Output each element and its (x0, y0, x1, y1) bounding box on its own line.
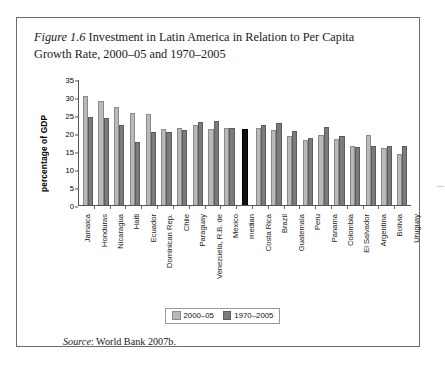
bar-group (284, 80, 300, 205)
x-tick-mark (95, 206, 111, 209)
x-tick-mark (190, 206, 206, 209)
x-tick-mark (269, 206, 285, 209)
bar-1970-2005[interactable] (214, 121, 219, 205)
x-label-wrap: Argentina (375, 212, 391, 298)
x-label-wrap: median (243, 212, 259, 298)
bar-group (237, 80, 253, 205)
y-tick-5: 5 (70, 184, 74, 193)
x-label-wrap: Ecuador (145, 212, 161, 298)
x-tick-mark (111, 206, 127, 209)
x-label: Haiti (132, 214, 141, 229)
x-label-wrap: Haiti (128, 212, 144, 298)
x-label-wrap: Uruguay (407, 212, 423, 298)
y-tick-20: 20 (66, 130, 74, 139)
x-label: median (247, 214, 256, 239)
x-label-wrap: Venezuela, R.B. de (210, 212, 226, 298)
x-axis-ticks (78, 206, 411, 210)
bar-group (190, 80, 206, 205)
bar-1970-2005[interactable] (198, 122, 203, 205)
bar-1970-2005[interactable] (88, 117, 93, 205)
bar-group (221, 80, 237, 205)
bar-1970-2005[interactable] (292, 131, 297, 205)
x-label-wrap: Colombia (342, 212, 358, 298)
bar-median[interactable] (242, 129, 248, 205)
source-label: Source (63, 336, 91, 347)
x-tick-mark (300, 206, 316, 209)
x-label-wrap: Chile (178, 212, 194, 298)
bar-group (363, 80, 379, 205)
x-label: Nicaragua (116, 214, 125, 249)
figure-frame: Figure 1.6 Investment in Latin America i… (16, 17, 420, 347)
x-label-wrap: El Salvador (358, 212, 374, 298)
bar-1970-2005[interactable] (276, 123, 281, 205)
legend-swatch (223, 311, 232, 320)
x-label: Bolivia (395, 214, 404, 236)
bar-1970-2005[interactable] (371, 146, 376, 205)
bar-1970-2005[interactable] (182, 130, 187, 205)
x-tick-mark (142, 206, 158, 209)
x-tick-mark (237, 206, 253, 209)
bar-group (316, 80, 332, 205)
x-label: Panama (329, 214, 338, 242)
x-label-wrap: Dominican Rep. (161, 212, 177, 298)
bar-group (127, 80, 143, 205)
x-tick-mark (126, 206, 142, 209)
x-tick-mark (158, 206, 174, 209)
x-label: Ecuador (148, 214, 157, 242)
x-tick-mark (316, 206, 332, 209)
bar-1970-2005[interactable] (261, 125, 266, 205)
bar-1970-2005[interactable] (135, 142, 140, 205)
bar-group (174, 80, 190, 205)
x-label: Dominican Rep. (165, 214, 174, 268)
chart-legend: 2000–051970–2005 (165, 308, 280, 324)
x-label-wrap: Nicaragua (112, 212, 128, 298)
bar-group (300, 80, 316, 205)
x-tick-mark (253, 206, 269, 209)
bar-1970-2005[interactable] (402, 146, 407, 205)
x-label: Guatemala (296, 214, 305, 251)
x-label: Argentina (378, 214, 387, 247)
x-axis-category-labels: JamaicaHondurasNicaraguaHaitiEcuadorDomi… (78, 212, 425, 298)
x-label: Chile (181, 214, 190, 231)
bar-1970-2005[interactable] (166, 132, 171, 205)
bar-1970-2005[interactable] (308, 138, 313, 205)
bar-1970-2005[interactable] (339, 136, 344, 205)
chart-axes (78, 80, 411, 206)
bar-group (379, 80, 395, 205)
bar-1970-2005[interactable] (355, 147, 360, 205)
y-tick-15: 15 (66, 148, 74, 157)
bar-group (96, 80, 112, 205)
x-label: Mexico (231, 214, 240, 238)
bar-group (394, 80, 410, 205)
y-axis-title: percentage of GDP (39, 98, 53, 208)
y-tick-30: 30 (66, 94, 74, 103)
x-tick-mark (348, 206, 364, 209)
figure-caption: Figure 1.6 Investment in Latin America i… (34, 29, 394, 62)
bar-1970-2005[interactable] (119, 125, 124, 205)
x-label-wrap: Brazil (276, 212, 292, 298)
bar-1970-2005[interactable] (151, 132, 156, 205)
legend-item[interactable]: 1970–2005 (223, 311, 274, 320)
x-tick-mark (332, 206, 348, 209)
legend-swatch (172, 311, 181, 320)
x-tick-mark (79, 206, 95, 209)
x-tick-mark (285, 206, 301, 209)
x-label: Jamaica (83, 214, 92, 242)
x-tick-mark (174, 206, 190, 209)
bar-group (206, 80, 222, 205)
bar-group (269, 80, 285, 205)
page-edge-mark (437, 186, 444, 187)
bar-1970-2005[interactable] (104, 118, 109, 205)
y-tick-0: 0 (70, 202, 74, 211)
x-tick-mark (364, 206, 380, 209)
bar-1970-2005[interactable] (387, 146, 392, 205)
y-tick-35: 35 (66, 76, 74, 85)
bar-groups (79, 80, 411, 205)
bar-1970-2005[interactable] (324, 127, 329, 205)
x-label: Venezuela, R.B. de (214, 214, 223, 279)
legend-item[interactable]: 2000–05 (172, 311, 214, 320)
bar-group (159, 80, 175, 205)
x-label: Costa Rica (263, 214, 272, 251)
x-tick-mark (395, 206, 410, 209)
bar-1970-2005[interactable] (229, 128, 234, 205)
